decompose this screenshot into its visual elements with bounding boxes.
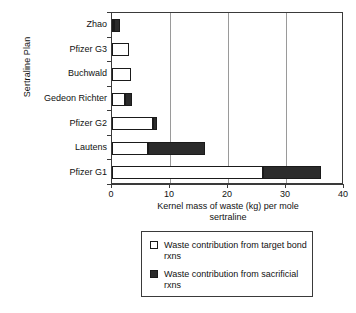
y-tick-mark bbox=[107, 37, 111, 38]
y-tick-label-pfizer-g1: Pfizer G1 bbox=[14, 167, 107, 177]
y-tick-label-pfizer-g2: Pfizer G2 bbox=[14, 118, 107, 128]
y-tick-mark bbox=[107, 12, 111, 13]
filled-square-icon bbox=[150, 270, 158, 278]
legend-label-target-bond: Waste contribution from target bond rxns bbox=[164, 240, 308, 262]
bar-segment bbox=[153, 117, 157, 130]
bar-row bbox=[112, 117, 344, 130]
bar-segment bbox=[112, 142, 148, 155]
bar-row bbox=[112, 166, 344, 179]
y-tick-label-lautens: Lautens bbox=[14, 142, 107, 152]
x-axis-title-line-2: sertraline bbox=[209, 212, 246, 222]
x-axis-title-line-1: Kernel mass of waste (kg) per mole bbox=[157, 201, 299, 211]
x-tick-label-0: 0 bbox=[96, 189, 126, 199]
y-tick-label-gedeon-richter: Gedeon Richter bbox=[14, 93, 107, 103]
x-tick-mark-10 bbox=[169, 184, 170, 188]
legend-entry-sacrificial: Waste contribution from sacrificial rxns bbox=[150, 269, 308, 291]
x-tick-label-40: 40 bbox=[328, 189, 356, 199]
bar-segment bbox=[112, 117, 153, 130]
x-tick-label-10: 10 bbox=[154, 189, 184, 199]
y-tick-label-pfizer-g3: Pfizer G3 bbox=[14, 44, 107, 54]
y-tick-label-zhao: Zhao bbox=[14, 19, 107, 29]
legend-label-sacrificial: Waste contribution from sacrificial rxns bbox=[164, 269, 308, 291]
y-axis-tick-labels: Zhao Pfizer G3 Buchwald Gedeon Richter P… bbox=[14, 12, 107, 184]
x-tick-mark-30 bbox=[285, 184, 286, 188]
bar-segment bbox=[263, 166, 321, 179]
bar-segment bbox=[125, 93, 133, 106]
y-tick-mark bbox=[107, 86, 111, 87]
legend-entry-target-bond: Waste contribution from target bond rxns bbox=[150, 240, 308, 262]
bar-segment bbox=[114, 19, 120, 32]
open-square-icon bbox=[150, 241, 158, 249]
y-tick-mark bbox=[107, 135, 111, 136]
bar-row bbox=[112, 142, 344, 155]
bar-segment bbox=[148, 142, 205, 155]
bar-row bbox=[112, 68, 344, 81]
x-axis-title: Kernel mass of waste (kg) per mole sertr… bbox=[100, 201, 356, 223]
y-tick-mark bbox=[107, 159, 111, 160]
bar-segment bbox=[112, 166, 263, 179]
bar-row bbox=[112, 43, 344, 56]
bar-row bbox=[112, 19, 344, 32]
y-tick-label-buchwald: Buchwald bbox=[14, 68, 107, 78]
x-tick-mark-0 bbox=[111, 184, 112, 188]
bar-row bbox=[112, 93, 344, 106]
y-tick-mark bbox=[107, 61, 111, 62]
x-tick-mark-40 bbox=[343, 184, 344, 188]
plot-area bbox=[111, 12, 343, 184]
x-tick-label-30: 30 bbox=[270, 189, 300, 199]
x-tick-mark-20 bbox=[227, 184, 228, 188]
legend-box: Waste contribution from target bond rxns… bbox=[141, 231, 313, 297]
x-tick-label-20: 20 bbox=[212, 189, 242, 199]
y-tick-mark bbox=[107, 110, 111, 111]
bar-segment bbox=[112, 43, 129, 56]
bar-segment bbox=[112, 68, 131, 81]
bar-segment bbox=[112, 93, 125, 106]
bar-chart-figure: Sertraline Plan Zhao Pfizer G3 Buchwald … bbox=[0, 0, 356, 313]
